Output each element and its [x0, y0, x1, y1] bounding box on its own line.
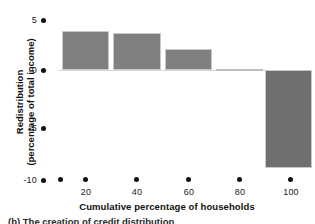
bar-60 [165, 49, 212, 70]
y-tick-0: 0 [2, 65, 46, 75]
plot-area: Redistribution (percentage of total inco… [0, 0, 315, 224]
y-tick-5: 5 [2, 15, 46, 25]
x-tick-marker-60 [186, 177, 191, 182]
bar-80 [216, 69, 263, 71]
y-tick-label-minus10: -10 [23, 176, 37, 185]
y-tick-label-5: 5 [32, 16, 37, 25]
y-tick-marker-minus10 [41, 178, 46, 183]
chart-container: Redistribution (percentage of total inco… [0, 0, 315, 224]
y-tick-minus5: -5 [2, 123, 46, 133]
x-tick-label-40: 40 [119, 188, 155, 197]
x-tick-marker-20 [83, 177, 88, 182]
y-axis-title: Redistribution (percentage of total inco… [14, 22, 36, 182]
figure-caption: (b) The creation of credit distribution [8, 216, 308, 224]
x-axis-title: Cumulative percentage of households [22, 201, 312, 212]
x-tick-marker-80 [237, 177, 242, 182]
y-tick-minus10: -10 [2, 175, 46, 185]
bar-40 [113, 33, 161, 70]
y-axis-title-line2: (percentage of total income) [25, 22, 36, 182]
y-tick-marker-minus5 [41, 126, 46, 131]
bar-100 [265, 70, 312, 168]
y-axis-title-line1: Redistribution [14, 22, 25, 182]
x-tick-marker-100 [288, 177, 293, 182]
y-tick-marker-0 [41, 68, 46, 73]
y-tick-label-minus5: -5 [29, 124, 37, 133]
x-tick-label-100: 100 [273, 188, 309, 197]
x-tick-label-20: 20 [68, 188, 104, 197]
y-tick-label-0: 0 [32, 66, 37, 75]
x-tick-marker-40 [134, 177, 139, 182]
x-tick-label-60: 60 [171, 188, 207, 197]
y-tick-marker-5 [41, 18, 46, 23]
x-tick-label-80: 80 [222, 188, 258, 197]
bar-20 [62, 31, 109, 70]
x-tick-marker-origin [58, 177, 63, 182]
